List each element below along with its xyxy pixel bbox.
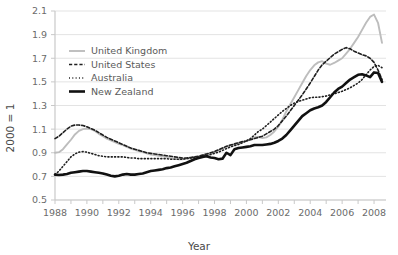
axis-lines [51, 11, 386, 204]
y-tick-label: 0.9 [32, 147, 47, 158]
x-tick-label: 2000 [234, 207, 258, 218]
y-tick-label: 1.5 [32, 76, 47, 87]
x-tick-label: 1994 [139, 207, 163, 218]
x-tick-label: 1988 [43, 207, 67, 218]
y-axis-tick-labels: 0.50.70.91.11.31.51.71.92.1 [32, 5, 47, 205]
y-tick-label: 1.7 [32, 53, 47, 64]
x-tick-label: 2004 [298, 207, 322, 218]
chart-legend: United KingdomUnited StatesAustraliaNew … [69, 45, 167, 97]
y-tick-label: 1.3 [32, 100, 47, 111]
x-tick-label: 1990 [75, 207, 99, 218]
y-axis-title: 2000 = 1 [4, 104, 16, 153]
y-tick-label: 0.7 [32, 171, 47, 182]
x-tick-label: 2008 [362, 207, 386, 218]
x-axis-tick-labels: 1988199019921994199619982000200220042006… [43, 207, 386, 218]
y-tick-label: 2.1 [32, 5, 47, 16]
legend-label-united-kingdom: United Kingdom [91, 45, 167, 56]
y-tick-label: 1.9 [32, 29, 47, 40]
grid-lines [55, 11, 386, 200]
x-tick-label: 2006 [330, 207, 354, 218]
x-tick-label: 1996 [171, 207, 195, 218]
legend-label-australia: Australia [91, 72, 133, 83]
legend-label-united-states: United States [91, 59, 155, 70]
x-axis-title: Year [187, 240, 211, 252]
x-tick-label: 1998 [202, 207, 226, 218]
y-tick-label: 1.1 [32, 124, 47, 135]
x-tick-label: 1992 [107, 207, 131, 218]
y-tick-label: 0.5 [32, 194, 47, 205]
legend-label-new-zealand: New Zealand [91, 86, 153, 97]
chart-container: 0.50.70.91.11.31.51.71.92.1 198819901992… [0, 0, 398, 255]
line-chart: 0.50.70.91.11.31.51.71.92.1 198819901992… [0, 0, 398, 255]
x-tick-label: 2002 [266, 207, 290, 218]
